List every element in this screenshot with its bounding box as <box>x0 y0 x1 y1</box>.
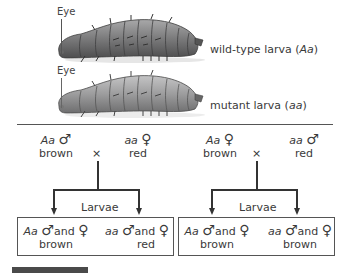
cross1-offspring-2: aa ♂and ♀ red <box>104 225 170 251</box>
cross2-stem-line <box>256 161 258 190</box>
larva-illustration-icon <box>55 8 205 63</box>
mutant-caption: mutant larva (aa) <box>210 99 307 112</box>
cross2-cross-symbol: × <box>252 147 261 160</box>
female-symbol-icon: ♀ <box>78 222 88 238</box>
male-symbol-icon: ♂ <box>41 222 54 238</box>
wildtype-caption: wild-type larva (Aa) <box>210 43 318 56</box>
female-symbol-icon: ♀ <box>159 222 169 238</box>
female-symbol-icon: ♀ <box>239 222 249 238</box>
female-symbol-icon: ♀ <box>322 222 332 238</box>
eye-pointer-line <box>61 19 62 54</box>
female-symbol-icon: ♀ <box>224 131 234 147</box>
male-symbol-icon: ♂ <box>59 131 72 147</box>
male-symbol-icon: ♂ <box>202 222 215 238</box>
cross1-cross-symbol: × <box>92 147 101 160</box>
section-divider <box>17 124 333 125</box>
cross2-offspring-2: aa ♂and ♀ brown <box>264 225 336 251</box>
cross2-parent2: aa ♂ red <box>284 134 324 160</box>
cross1-offspring-1: Aa ♂and ♀ brown <box>20 225 92 251</box>
cross1-branch-line <box>53 189 139 191</box>
arrow-down-icon <box>209 208 215 215</box>
eye-pointer-line <box>61 78 62 108</box>
mutant-larva <box>55 66 205 118</box>
eye-label-mutant: Eye <box>57 65 75 76</box>
male-symbol-icon: ♂ <box>285 222 298 238</box>
cross1-left-drop <box>53 189 55 209</box>
cross1-larvae-label: Larvae <box>81 201 118 214</box>
larva-illustration-icon <box>55 66 205 118</box>
cross1-right-drop <box>138 189 140 209</box>
arrow-down-icon <box>136 208 142 215</box>
cross2-branch-line <box>211 189 297 191</box>
male-symbol-icon: ♂ <box>122 222 135 238</box>
cross2-right-drop <box>296 189 298 209</box>
cross2-parent1: Aa ♀ brown <box>192 134 248 160</box>
male-symbol-icon: ♂ <box>306 131 319 147</box>
arrow-down-icon <box>294 208 300 215</box>
arrow-down-icon <box>51 208 57 215</box>
cross1-stem-line <box>97 161 99 190</box>
cross2-left-drop <box>211 189 213 209</box>
cross2-offspring-1: Aa ♂and ♀ brown <box>181 225 253 251</box>
cross1-parent1: Aa ♂ brown <box>28 134 84 160</box>
cross1-parent2: aa ♀ red <box>118 134 158 160</box>
eye-label-wildtype: Eye <box>57 6 75 17</box>
cross2-larvae-label: Larvae <box>239 201 276 214</box>
figure-label-bar <box>12 267 88 273</box>
wild-type-larva <box>55 8 205 63</box>
female-symbol-icon: ♀ <box>141 131 151 147</box>
